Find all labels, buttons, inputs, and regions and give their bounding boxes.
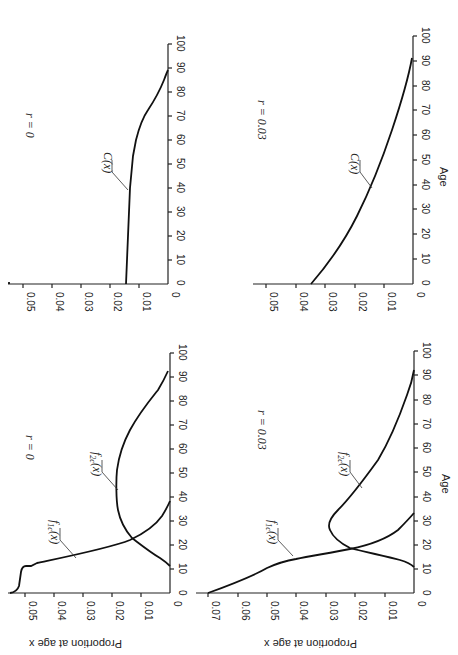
label-c: C(x) — [101, 152, 115, 173]
value-ticks: 0 0.01 0.02 0.03 0.04 0.05 0.06 0.07 — [208, 593, 427, 621]
svg-text:100: 100 — [177, 344, 188, 361]
age-ticks: 0 10 20 30 40 50 60 70 80 90 100 — [170, 344, 188, 596]
svg-text:90: 90 — [177, 371, 188, 383]
svg-text:0.02: 0.02 — [114, 601, 125, 621]
r-label: r = 0 — [23, 113, 37, 138]
svg-text:0.02: 0.02 — [357, 292, 368, 312]
svg-text:0: 0 — [415, 292, 426, 298]
svg-text:0.01: 0.01 — [386, 292, 397, 312]
svg-text:0.01: 0.01 — [143, 601, 154, 621]
curve-f1c — [208, 513, 414, 593]
svg-text:90: 90 — [175, 62, 186, 74]
figure: 0 0.01 0.02 0.03 0.04 0.05 0 10 20 30 40… — [0, 0, 458, 655]
svg-text:50: 50 — [175, 158, 186, 170]
r-label: r = 0 — [23, 435, 37, 460]
svg-text:0.01: 0.01 — [141, 292, 152, 312]
svg-text:0: 0 — [170, 292, 181, 298]
label-c: C(x) — [348, 153, 362, 174]
svg-text:30: 30 — [421, 515, 432, 527]
svg-text:100: 100 — [420, 27, 431, 44]
svg-text:0.02: 0.02 — [112, 292, 123, 312]
svg-text:0.04: 0.04 — [56, 601, 67, 621]
label-f1c: f1c(x) — [46, 520, 62, 544]
svg-text:100: 100 — [175, 35, 186, 52]
svg-text:50: 50 — [177, 467, 188, 479]
svg-text:60: 60 — [175, 134, 186, 146]
svg-text:30: 30 — [175, 206, 186, 218]
svg-text:0.05: 0.05 — [269, 601, 280, 621]
panel-f-r0: 0 0.01 0.02 0.03 0.04 0.05 0 10 20 30 40… — [8, 344, 188, 650]
age-axis-label: Age — [438, 167, 450, 187]
svg-text:10: 10 — [420, 253, 431, 265]
svg-text:90: 90 — [420, 55, 431, 67]
svg-text:30: 30 — [420, 203, 431, 215]
svg-text:80: 80 — [177, 395, 188, 407]
age-ticks: 0 10 20 30 40 50 60 70 80 90 100 — [413, 27, 431, 286]
svg-text:60: 60 — [177, 443, 188, 455]
svg-text:40: 40 — [175, 182, 186, 194]
panel-c-r0: 0 0.01 0.02 0.03 0.04 0.05 0 10 20 30 40… — [8, 35, 186, 312]
svg-text:80: 80 — [175, 86, 186, 98]
svg-text:0.05: 0.05 — [268, 292, 279, 312]
svg-text:0.04: 0.04 — [298, 601, 309, 621]
r-label: r = 0.03 — [255, 410, 269, 450]
svg-text:0.05: 0.05 — [25, 292, 36, 312]
label-f2c: f2c(x) — [88, 452, 104, 476]
svg-text:0: 0 — [416, 601, 427, 607]
value-ticks: 0 0.01 0.02 0.03 0.04 0.05 — [266, 284, 426, 312]
svg-text:80: 80 — [421, 394, 432, 406]
svg-text:0: 0 — [177, 590, 188, 596]
svg-text:20: 20 — [175, 230, 186, 242]
svg-text:0: 0 — [172, 601, 183, 607]
svg-text:70: 70 — [177, 419, 188, 431]
r-label: r = 0.03 — [255, 100, 269, 140]
svg-text:70: 70 — [421, 418, 432, 430]
panel-c-r003: 0 0.01 0.02 0.03 0.04 0.05 0 10 20 30 40… — [253, 27, 450, 312]
value-ticks: 0 0.01 0.02 0.03 0.04 0.05 — [23, 284, 181, 312]
svg-text:0: 0 — [420, 280, 431, 286]
svg-text:10: 10 — [175, 254, 186, 266]
svg-text:20: 20 — [421, 539, 432, 551]
age-ticks: 0 10 20 30 40 50 60 70 80 90 100 — [168, 35, 186, 286]
svg-text:0.04: 0.04 — [54, 292, 65, 312]
curve-f1c — [10, 501, 170, 593]
curve-f2c — [116, 371, 170, 566]
y-axis-label: Proportion at age x — [29, 638, 122, 650]
curve-c — [126, 70, 168, 284]
svg-text:0: 0 — [175, 280, 186, 286]
svg-text:100: 100 — [421, 342, 432, 359]
svg-text:0.05: 0.05 — [27, 601, 38, 621]
svg-text:40: 40 — [177, 491, 188, 503]
svg-text:0.03: 0.03 — [85, 601, 96, 621]
svg-text:10: 10 — [421, 563, 432, 575]
svg-text:0.07: 0.07 — [210, 601, 221, 621]
svg-text:90: 90 — [421, 369, 432, 381]
svg-text:0.03: 0.03 — [327, 292, 338, 312]
svg-text:10: 10 — [177, 563, 188, 575]
label-f1c: f1c(x) — [264, 520, 280, 544]
svg-text:80: 80 — [420, 80, 431, 92]
svg-text:60: 60 — [420, 129, 431, 141]
svg-text:0.02: 0.02 — [357, 601, 368, 621]
value-ticks: 0 0.01 0.02 0.03 0.04 0.05 — [25, 593, 183, 621]
svg-text:60: 60 — [421, 442, 432, 454]
svg-text:20: 20 — [177, 539, 188, 551]
svg-text:20: 20 — [420, 228, 431, 240]
svg-text:0.03: 0.03 — [83, 292, 94, 312]
svg-text:50: 50 — [420, 154, 431, 166]
svg-text:0.03: 0.03 — [328, 601, 339, 621]
svg-text:0.01: 0.01 — [387, 601, 398, 621]
svg-text:0.06: 0.06 — [240, 601, 251, 621]
svg-text:40: 40 — [420, 179, 431, 191]
svg-text:30: 30 — [177, 515, 188, 527]
svg-text:0.04: 0.04 — [298, 292, 309, 312]
svg-text:40: 40 — [421, 491, 432, 503]
panel-f-r003: 0 0.01 0.02 0.03 0.04 0.05 0.06 0.07 0 1… — [196, 342, 452, 650]
svg-text:50: 50 — [421, 466, 432, 478]
svg-text:70: 70 — [175, 110, 186, 122]
age-axis-label: Age — [440, 474, 452, 494]
y-axis-label: Proportion at age x — [264, 638, 357, 650]
label-f2c: f2c(x) — [336, 452, 352, 476]
age-ticks: 0 10 20 30 40 50 60 70 80 90 100 — [414, 342, 432, 596]
svg-text:70: 70 — [420, 104, 431, 116]
